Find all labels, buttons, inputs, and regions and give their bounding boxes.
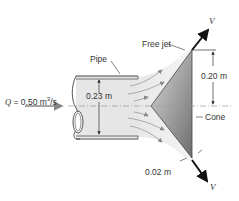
flow-rate-label: Q = 0.50 m3/s [5, 96, 57, 106]
flow-rate-units-tail: /s [50, 97, 57, 107]
velocity-arrow-bottom [192, 160, 207, 181]
jet-thickness-label: 0.02 m [145, 168, 171, 177]
pipe [72, 76, 138, 139]
velocity-label-bottom: V [210, 183, 216, 192]
flow-rate-symbol: Q [5, 97, 11, 107]
free-jet-label: Free jet [142, 40, 171, 49]
pipe-label: Pipe [90, 55, 107, 64]
cone-height-label: 0.20 m [201, 72, 227, 81]
pipe-cone-free-jet-diagram: Q = 0.50 m3/s Pipe 0.23 m Free jet 0.20 … [0, 0, 239, 201]
flow-rate-value: = 0.50 m [14, 97, 47, 107]
cone-label: Cone [205, 113, 225, 122]
velocity-arrow-top [192, 30, 208, 50]
pipe-diameter-label: 0.23 m [86, 92, 112, 101]
velocity-label-top: V [209, 17, 215, 26]
